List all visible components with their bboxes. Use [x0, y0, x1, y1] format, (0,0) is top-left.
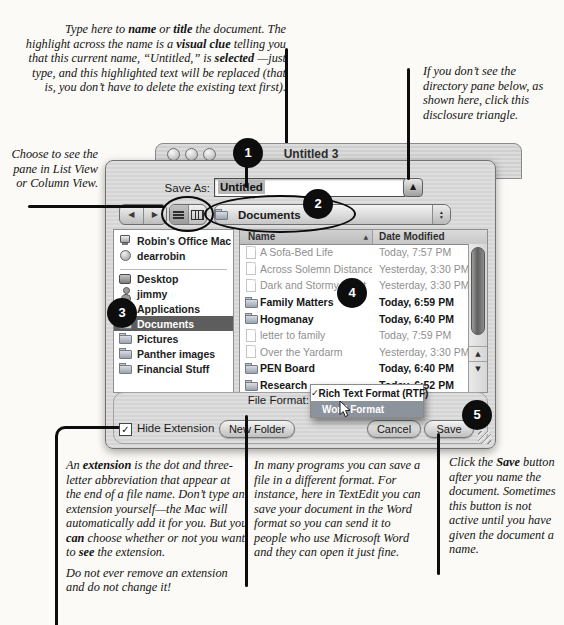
- file-row: Across Solemn Distances Yesterday, 3:30 …: [240, 261, 469, 278]
- callout-line-hide-extension: [55, 426, 119, 625]
- sidebar-item-label: Desktop: [137, 273, 178, 285]
- file-type-icon: [245, 362, 258, 375]
- file-date-modified: Yesterday, 3:30 PM: [372, 346, 469, 358]
- file-name: Across Solemn Distances: [260, 263, 372, 275]
- file-format-label: File Format:: [229, 394, 309, 406]
- file-type-icon: [245, 312, 258, 325]
- file-format-menu: ✓ Rich Text Format (RTF) ✓ Word Format: [310, 384, 424, 418]
- file-date-modified: Yesterday, 3:30 PM: [372, 279, 469, 291]
- file-date-modified: Today, 7:57 PM: [372, 246, 469, 258]
- sidebar-item[interactable]: Panther images: [114, 346, 233, 361]
- book-page: Type here to name or title the document.…: [0, 0, 564, 625]
- mouse-cursor-icon: [339, 401, 352, 418]
- sidebar-item-icon: [119, 234, 132, 247]
- sidebar-item-label: jimmy: [137, 288, 167, 300]
- file-type-icon: [245, 262, 258, 275]
- resize-grip[interactable]: [478, 431, 491, 444]
- circle-around-location-popup: [204, 195, 356, 233]
- file-row: letter to family Today, 7:59 PM: [240, 327, 469, 344]
- sidebar-item[interactable]: jimmy: [114, 286, 233, 301]
- file-row[interactable]: PEN Board Today, 6:40 PM: [240, 360, 469, 377]
- hide-extension-checkbox[interactable]: ✓: [119, 423, 132, 436]
- file-date-modified: Today, 7:59 PM: [372, 329, 469, 341]
- callout-line-view-buttons: [28, 205, 164, 208]
- sidebar-item[interactable]: dearrobin: [114, 248, 233, 263]
- menu-item[interactable]: ✓ Rich Text Format (RTF): [311, 385, 423, 401]
- stepper-down-icon: ▾: [440, 215, 443, 220]
- menu-item[interactable]: ✓ Word Format: [311, 401, 423, 417]
- sidebar-item[interactable]: Financial Stuff: [114, 361, 233, 376]
- sidebar-item-label: Pictures: [137, 333, 178, 345]
- back-icon: ◀: [128, 210, 134, 219]
- callout-line-save: [437, 433, 440, 575]
- scroll-down-icon: ▼: [475, 365, 480, 373]
- annotation-format: In many programs you can save a file in …: [254, 458, 424, 560]
- annotation-name-document: Type here to name or title the document.…: [18, 22, 286, 95]
- annotation-save-button: Click the Save button after you name the…: [449, 455, 561, 557]
- file-name: A Sofa-Bed Life: [260, 246, 372, 258]
- sidebar-item-icon: [119, 362, 132, 375]
- file-date-modified: Today, 6:40 PM: [372, 362, 469, 374]
- scroll-up-button[interactable]: ▲: [469, 346, 487, 362]
- cancel-button[interactable]: Cancel: [367, 420, 421, 438]
- callout-line-format: [245, 415, 248, 587]
- menu-checkmark-icon: ✓: [311, 385, 319, 401]
- disclosure-triangle-button[interactable]: ▲: [403, 178, 423, 197]
- callout-5: 5: [462, 400, 492, 430]
- sidebar-item[interactable]: Desktop: [114, 271, 233, 286]
- scrollbar-thumb[interactable]: [471, 247, 485, 335]
- callout-4: 4: [337, 278, 367, 308]
- menu-item-label: Word Format: [322, 404, 384, 415]
- file-name: Hogmanay: [260, 313, 372, 325]
- sidebar-item-label: Financial Stuff: [137, 363, 209, 375]
- sidebar-item-label: Robin's Office Mac: [137, 235, 231, 247]
- file-date-modified: Yesterday, 3:30 PM: [372, 263, 469, 275]
- sidebar-item-icon: [119, 332, 132, 345]
- callout-3: 3: [107, 298, 137, 328]
- callout-line-disclosure: [407, 68, 410, 180]
- sidebar-item[interactable]: Robin's Office Mac: [114, 233, 233, 248]
- column-header-date[interactable]: Date Modified: [372, 230, 487, 244]
- popup-stepper[interactable]: ▴ ▾: [432, 205, 450, 224]
- menu-item-label: Rich Text Format (RTF): [319, 388, 429, 399]
- file-type-icon: [245, 345, 258, 358]
- file-row[interactable]: Hogmanay Today, 6:40 PM: [240, 310, 469, 327]
- file-name: letter to family: [260, 329, 372, 341]
- sidebar-item-icon: [119, 249, 132, 262]
- checkmark-icon: ✓: [121, 424, 129, 435]
- file-list: Name ▲ Date Modified A Sofa-Bed Life Tod…: [239, 229, 488, 393]
- sort-ascending-icon: ▲: [363, 230, 368, 244]
- selected-filename-text: Untitled: [218, 180, 265, 194]
- file-date-modified: Today, 6:59 PM: [372, 296, 469, 308]
- file-type-icon: [245, 296, 258, 309]
- sidebar-item[interactable]: [114, 263, 233, 271]
- scroll-up-icon: ▲: [475, 350, 480, 358]
- hide-extension-label: Hide Extension: [137, 422, 214, 434]
- callout-2: 2: [303, 189, 333, 219]
- file-row: A Sofa-Bed Life Today, 7:57 PM: [240, 244, 469, 261]
- file-row: Over the Yardarm Yesterday, 3:30 PM: [240, 344, 469, 361]
- sidebar-item-icon: [119, 272, 132, 285]
- file-type-icon: [245, 279, 258, 292]
- sidebar-item[interactable]: Pictures: [114, 331, 233, 346]
- sidebar-item-label: Documents: [137, 318, 194, 330]
- sidebar-item-label: Applications: [137, 303, 200, 315]
- sidebar-item-label: dearrobin: [137, 250, 185, 262]
- file-type-icon: [245, 379, 258, 392]
- save-as-label: Save As:: [136, 182, 210, 194]
- annotation-disclosure: If you don’t see the directory pane belo…: [423, 64, 558, 122]
- file-date-modified: Today, 6:40 PM: [372, 313, 469, 325]
- callout-line-top-left: [285, 48, 288, 146]
- scrollbar-track[interactable]: ▲ ▼: [468, 244, 487, 392]
- file-type-icon: [245, 329, 258, 342]
- annotation-view-buttons: Choose to see the pane in List View or C…: [8, 147, 98, 191]
- disclosure-up-icon: ▲: [410, 182, 416, 191]
- new-folder-button[interactable]: New Folder: [219, 420, 295, 438]
- callout-1: 1: [233, 138, 263, 168]
- sidebar-item-label: Panther images: [137, 348, 215, 360]
- forward-icon: ▶: [152, 210, 158, 219]
- sidebar-item-icon: [119, 347, 132, 360]
- file-rows: A Sofa-Bed Life Today, 7:57 PM Across So…: [240, 244, 469, 392]
- scroll-down-button[interactable]: ▼: [469, 361, 487, 377]
- file-type-icon: [245, 246, 258, 259]
